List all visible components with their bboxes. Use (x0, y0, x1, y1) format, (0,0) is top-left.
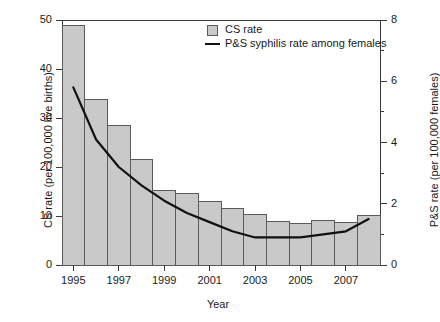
y-tick-label-left-20: 20 (26, 160, 52, 172)
y-axis-right-ticks (380, 20, 387, 265)
legend-label-cs-rate: CS rate (225, 23, 262, 35)
bar-1996 (85, 99, 108, 265)
y-axis-left-ticks (56, 20, 62, 265)
bar-1998 (130, 159, 153, 265)
y-tick-label-right-8: 8 (391, 13, 417, 25)
x-tick-label-1999: 1999 (144, 274, 184, 286)
bar-2003 (244, 215, 267, 265)
y-axis-right-title: P&S rate (per 100,000 females) (428, 50, 440, 250)
x-axis-title: Year (0, 298, 436, 310)
bar-2007 (335, 223, 358, 265)
bar-2002 (221, 209, 244, 265)
legend-swatch-bar-icon (207, 25, 217, 35)
y-tick-label-right-4: 4 (391, 136, 417, 148)
x-axis-ticks (73, 265, 346, 271)
y-tick-label-left-50: 50 (26, 13, 52, 25)
bar-1997 (107, 126, 130, 265)
bar-2001 (198, 201, 221, 265)
x-tick-label-1997: 1997 (99, 274, 139, 286)
x-tick-label-2005: 2005 (281, 274, 321, 286)
x-tick-label-2007: 2007 (326, 274, 366, 286)
y-tick-label-right-6: 6 (391, 74, 417, 86)
bar-2004 (266, 222, 289, 265)
y-tick-label-left-40: 40 (26, 62, 52, 74)
x-tick-label-1995: 1995 (53, 274, 93, 286)
y-tick-label-left-30: 30 (26, 111, 52, 123)
y-tick-label-right-2: 2 (391, 197, 417, 209)
x-tick-label-2003: 2003 (235, 274, 275, 286)
bar-1995 (62, 26, 85, 265)
bar-2000 (176, 193, 199, 265)
legend-label-ps-syphilis: P&S syphilis rate among females (225, 37, 386, 49)
x-tick-label-2001: 2001 (190, 274, 230, 286)
y-tick-label-right-0: 0 (391, 258, 417, 270)
bar-2006 (312, 221, 335, 265)
bar-2005 (289, 224, 312, 265)
y-tick-label-left-10: 10 (26, 209, 52, 221)
y-tick-label-left-0: 0 (26, 258, 52, 270)
